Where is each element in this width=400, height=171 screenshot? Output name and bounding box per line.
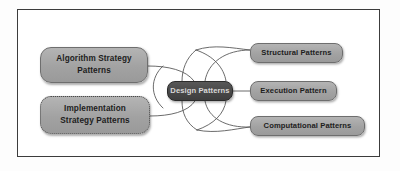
edge-arc-to-computational (197, 127, 250, 132)
node-label: Computational Patterns (264, 121, 352, 132)
edge-arc-right-upper (196, 50, 226, 81)
edge-arc-right-lower-inner (182, 101, 197, 130)
node-label: Design Patterns (170, 86, 229, 97)
edge-center-to-structural (205, 50, 250, 81)
node-computational-patterns[interactable]: Computational Patterns (250, 116, 365, 136)
node-label: Implementation Strategy Patterns (60, 103, 130, 126)
node-label: Execution Pattern (260, 86, 326, 97)
edge-implementation-to-center (150, 101, 195, 116)
edge-arc-to-structural (196, 47, 250, 50)
node-label: Structural Patterns (261, 48, 331, 59)
node-label: Algorithm Strategy Patterns (56, 53, 132, 76)
diagram-canvas: Algorithm Strategy Patterns Implementati… (0, 0, 400, 171)
edge-arc-right-lower (197, 101, 226, 130)
node-structural-patterns[interactable]: Structural Patterns (250, 43, 343, 63)
node-algorithm-strategy-patterns[interactable]: Algorithm Strategy Patterns (40, 47, 148, 83)
node-execution-pattern[interactable]: Execution Pattern (250, 81, 337, 101)
node-design-patterns[interactable]: Design Patterns (167, 81, 233, 101)
edge-loop-upper-left (153, 66, 163, 108)
node-implementation-strategy-patterns[interactable]: Implementation Strategy Patterns (40, 96, 150, 134)
